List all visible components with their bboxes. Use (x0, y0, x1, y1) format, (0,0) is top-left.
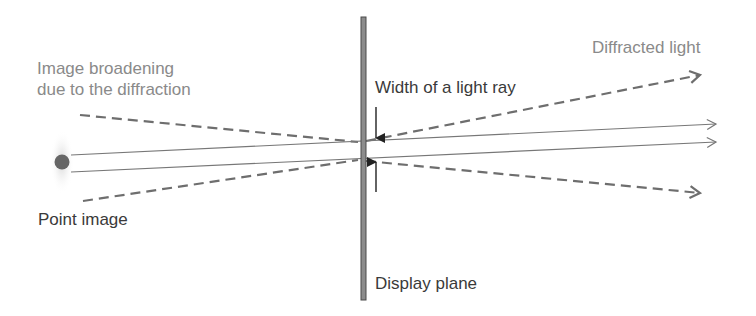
solid-ray-lower (71, 142, 716, 172)
image-broadening-label: Image broadening due to the diffraction (37, 58, 191, 100)
point-image-dot (55, 155, 70, 170)
point-image-label: Point image (38, 210, 128, 230)
dashed-ray-upper-left (80, 115, 358, 142)
width-of-light-ray-label: Width of a light ray (375, 78, 516, 98)
display-plane-bar (361, 17, 366, 300)
dashed-ray-lower-left (83, 160, 358, 201)
diffracted-light-label: Diffracted light (592, 38, 700, 58)
solid-ray-upper (71, 124, 716, 155)
dashed-ray-lower-right (366, 161, 700, 193)
display-plane-label: Display plane (375, 274, 477, 294)
